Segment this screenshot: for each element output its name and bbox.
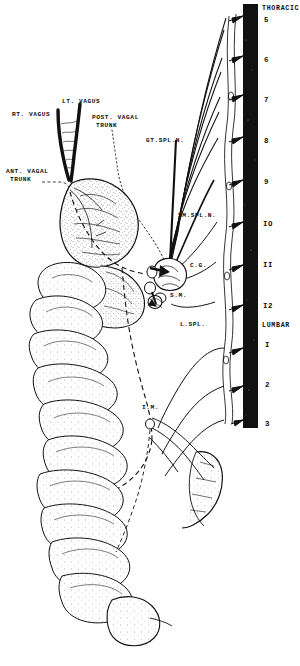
spine-level-t7: 7 — [264, 96, 269, 104]
label-ant-vagal-trunk-line2: TRUNK — [10, 176, 31, 184]
diagram-canvas — [0, 0, 300, 666]
celiac-ganglion-plexus — [145, 258, 187, 308]
label-smaller-splanchnic-nerve: SM.SPL.N. — [178, 212, 216, 220]
label-greater-splanchnic-nerve: GT.SPL.N. — [146, 137, 184, 145]
spine-level-t9: 9 — [264, 178, 269, 186]
vertebral-column-bar — [243, 4, 258, 428]
spine-region-thoracic: THORACIC — [262, 5, 299, 12]
spine-level-t8: 8 — [264, 137, 269, 145]
label-superior-mesenteric-ganglion: S.M. — [170, 292, 187, 300]
spine-level-l3: 3 — [265, 420, 270, 428]
stomach — [60, 179, 138, 267]
sympathetic-trunk-chain — [223, 14, 236, 424]
anatomical-figure: THORACIC LUMBAR 5 6 7 8 9 IO II I2 I 2 3… — [0, 0, 300, 666]
spine-level-t12: I2 — [263, 302, 273, 310]
spinal-segment-rays — [229, 16, 243, 426]
spine-level-t10: IO — [263, 220, 273, 228]
label-lumbar-splanchnic: L.SPL. — [180, 321, 206, 329]
label-post-vagal-trunk-line2: TRUNK — [96, 122, 117, 130]
descending-colon-rectum — [107, 452, 222, 646]
label-celiac-ganglion: C.G. — [190, 262, 207, 270]
label-lt-vagus: LT. VAGUS — [62, 98, 100, 106]
label-ant-vagal-trunk-line1: ANT. VAGAL — [6, 168, 49, 176]
spine-level-t6: 6 — [264, 56, 269, 64]
label-inferior-mesenteric: I.M. — [142, 404, 159, 412]
label-post-vagal-trunk-line1: POST. VAGAL — [92, 114, 139, 122]
spine-level-l1: I — [265, 341, 270, 349]
spine-region-lumbar: LUMBAR — [262, 322, 290, 329]
spine-level-t5: 5 — [264, 16, 269, 24]
label-rt-vagus: RT. VAGUS — [12, 111, 50, 119]
spine-level-t11: II — [263, 261, 273, 269]
duodenum-pancreas — [100, 266, 145, 328]
splanchnic-nerve-fan — [158, 18, 226, 476]
spine-level-l2: 2 — [265, 381, 270, 389]
